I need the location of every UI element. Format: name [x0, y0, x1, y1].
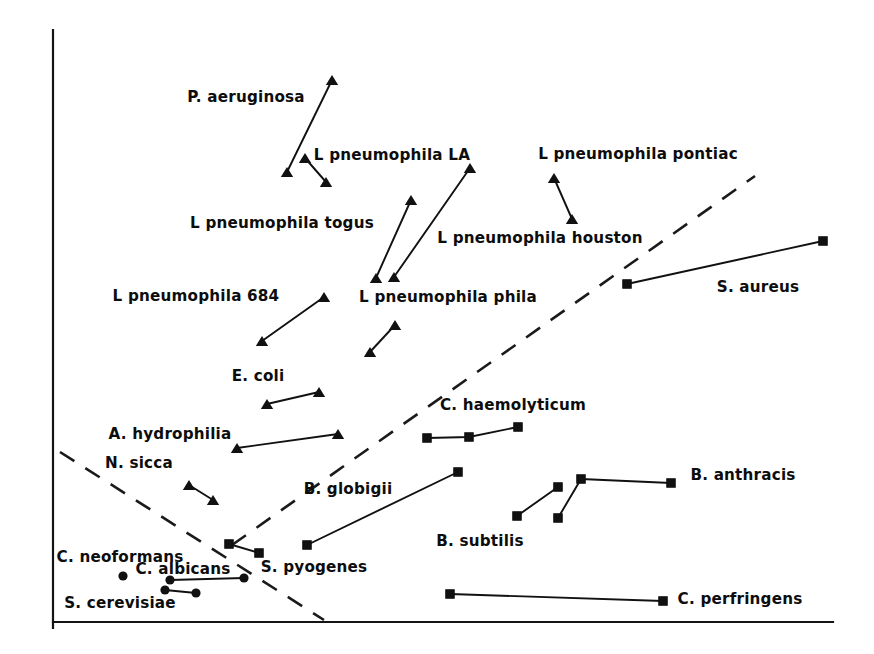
- scatter-plot-figure: P. aeruginosaL pneumophila LAL pneumophi…: [0, 0, 874, 654]
- marker-square: [667, 479, 675, 487]
- series-label-c-albicans: C. albicans: [135, 562, 230, 577]
- series-label-s-cerevisiae: S. cerevisiae: [64, 596, 176, 611]
- marker-triangle: [320, 177, 332, 187]
- marker-square: [446, 590, 454, 598]
- marker-square: [514, 423, 522, 431]
- series-l-pneumophila-phila: [364, 320, 401, 357]
- series-path: [165, 590, 196, 593]
- marker-circle: [160, 585, 169, 594]
- series-c-haemolyticum: [423, 423, 522, 442]
- series-path: [517, 487, 558, 516]
- marker-triangle: [566, 214, 578, 224]
- series-l-pneumophila-togus: [370, 195, 417, 283]
- series-label-e-coli: E. coli: [232, 369, 285, 384]
- series-label-n-sicca: N. sicca: [105, 456, 173, 471]
- marker-triangle: [318, 292, 330, 302]
- marker-square: [513, 512, 521, 520]
- marker-square: [454, 468, 462, 476]
- marker-square: [554, 483, 562, 491]
- series-label-b-globigii: B. globigii: [304, 482, 393, 497]
- marker-circle: [191, 588, 200, 597]
- series-label-c-perfringens: C. perfringens: [678, 592, 803, 607]
- marker-triangle: [389, 320, 401, 330]
- marker-triangle: [405, 195, 417, 205]
- series-path: [267, 392, 319, 404]
- marker-square: [465, 433, 473, 441]
- series-label-p-aeruginosa: P. aeruginosa: [187, 90, 304, 105]
- marker-circle: [239, 573, 248, 582]
- series-label-l-pneumophila-togus: L pneumophila togus: [190, 216, 374, 231]
- series-label-l-pneumophila-houston: L pneumophila houston: [437, 231, 642, 246]
- series-l-pneumophila-pontiac: [548, 173, 578, 224]
- marker-triangle: [281, 167, 293, 177]
- marker-triangle: [313, 387, 325, 397]
- series-label-l-pneumophila-pontiac: L pneumophila pontiac: [538, 147, 738, 162]
- marker-triangle: [548, 173, 560, 183]
- series-path: [394, 168, 470, 277]
- series-label-s-pyogenes: S. pyogenes: [261, 560, 368, 575]
- series-path: [237, 434, 338, 448]
- marker-square: [623, 280, 631, 288]
- series-label-b-anthracis: B. anthracis: [690, 468, 795, 483]
- marker-square: [554, 514, 562, 522]
- marker-triangle: [370, 273, 382, 283]
- series-a-hydrophilia: [231, 429, 344, 453]
- marker-circle: [118, 571, 127, 580]
- series-c-perfringens: [446, 590, 667, 605]
- marker-square: [255, 549, 263, 557]
- marker-square: [659, 597, 667, 605]
- series-path: [450, 594, 663, 601]
- series-path: [558, 479, 671, 518]
- marker-triangle: [464, 163, 476, 173]
- marker-triangle: [183, 480, 195, 490]
- series-path: [376, 200, 411, 278]
- marker-square: [423, 434, 431, 442]
- series-s-pyogenes: [225, 540, 263, 557]
- marker-triangle: [388, 272, 400, 282]
- series-label-s-aureus: S. aureus: [717, 280, 800, 295]
- series-label-b-subtilis: B. subtilis: [436, 534, 523, 549]
- series-label-l-pneumophila-la: L pneumophila LA: [314, 148, 470, 163]
- marker-square: [819, 237, 827, 245]
- series-c-neoformans: [118, 571, 127, 580]
- series-label-l-pneumophila-684: L pneumophila 684: [113, 289, 280, 304]
- marker-triangle: [261, 399, 273, 409]
- series-e-coli: [261, 387, 325, 409]
- series-n-sicca: [183, 480, 219, 505]
- marker-square: [303, 541, 311, 549]
- marker-triangle: [299, 153, 311, 163]
- series-path: [554, 178, 572, 219]
- series-label-l-pneumophila-phila: L pneumophila phila: [359, 290, 537, 305]
- marker-square: [577, 475, 585, 483]
- marker-triangle: [326, 75, 338, 85]
- marker-square: [225, 540, 233, 548]
- series-label-c-haemolyticum: C. haemolyticum: [440, 398, 586, 413]
- series-label-a-hydrophilia: A. hydrophilia: [109, 427, 232, 442]
- series-b-anthracis: [554, 475, 675, 522]
